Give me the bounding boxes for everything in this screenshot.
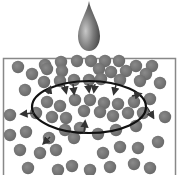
force-arrow-icon [22, 113, 34, 114]
particle [41, 63, 53, 75]
particle [52, 164, 64, 175]
particle [128, 96, 140, 108]
particle [144, 162, 156, 174]
particle-group [4, 55, 171, 175]
particle [134, 75, 146, 87]
particle [4, 129, 16, 141]
particle [95, 73, 107, 85]
particle [78, 105, 90, 117]
force-arrow-icon [94, 84, 95, 91]
droplet-icon [78, 1, 100, 51]
particle [60, 112, 72, 124]
particle [34, 147, 46, 159]
particle [107, 110, 119, 122]
particle [22, 162, 34, 174]
particle [112, 98, 124, 110]
particle [114, 141, 126, 153]
particle [20, 126, 32, 138]
force-arrow-icon [114, 85, 116, 93]
force-arrow-icon [132, 94, 140, 96]
force-arrow-icon [88, 84, 89, 91]
force-arrow-icon [73, 84, 74, 93]
particle [12, 61, 24, 73]
particle [66, 160, 78, 172]
particle [113, 55, 125, 67]
force-arrow-icon [64, 84, 66, 92]
surface-tension-diagram [0, 0, 179, 175]
particle [71, 55, 83, 67]
particle [54, 100, 66, 112]
particle [50, 144, 62, 156]
particle [84, 94, 96, 106]
particle [41, 96, 53, 108]
particle [68, 74, 80, 86]
particle [128, 158, 140, 170]
particle [19, 84, 31, 96]
particle [26, 68, 38, 80]
particle [154, 77, 166, 89]
particle [4, 109, 16, 121]
particle [38, 76, 50, 88]
diagram-root [0, 0, 179, 175]
particle [46, 111, 58, 123]
particle [122, 107, 134, 119]
particle [97, 147, 109, 159]
particle [94, 106, 106, 118]
particle [132, 142, 144, 154]
particle [84, 164, 96, 175]
particle [104, 161, 116, 173]
particle [159, 111, 171, 123]
particle [69, 94, 81, 106]
force-arrow-icon [84, 122, 85, 133]
particle [152, 136, 164, 148]
particle [14, 144, 26, 156]
